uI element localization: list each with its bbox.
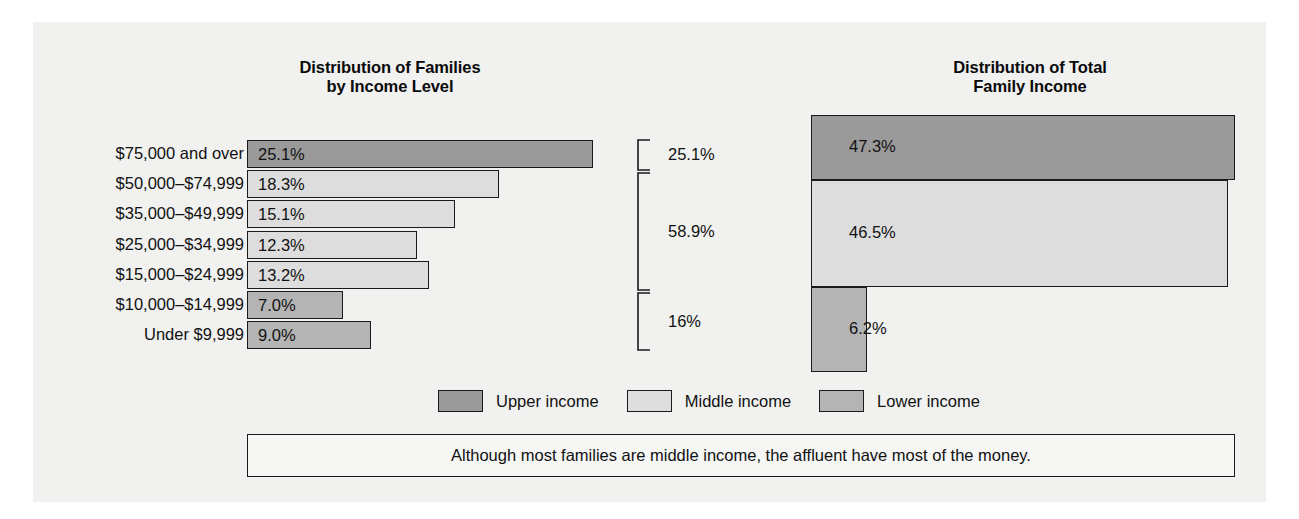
income-bracket-label: $15,000–$24,999 xyxy=(14,265,244,284)
income-share-value: 47.3% xyxy=(849,137,896,156)
income-bracket-row: $25,000–$34,99912.3% xyxy=(0,231,640,260)
legend-item: Lower income xyxy=(819,390,1008,412)
income-bracket-value: 12.3% xyxy=(258,236,305,255)
bracket-label: 25.1% xyxy=(668,145,715,164)
bracket-label: 16% xyxy=(668,312,701,331)
income-bracket-row: $15,000–$24,99913.2% xyxy=(0,261,640,290)
income-bracket-value: 9.0% xyxy=(258,326,296,345)
income-bracket-value: 25.1% xyxy=(258,145,305,164)
right-chart-title: Distribution of Total Family Income xyxy=(830,58,1230,96)
income-bracket-label: $35,000–$49,999 xyxy=(14,204,244,223)
income-bracket-value: 13.2% xyxy=(258,266,305,285)
legend-swatch-icon xyxy=(438,390,483,412)
income-bracket-row: Under $9,9999.0% xyxy=(0,321,640,350)
income-bracket-row: $10,000–$14,9997.0% xyxy=(0,291,640,320)
right-chart-title-line2: Family Income xyxy=(830,77,1230,96)
income-bracket-label: Under $9,999 xyxy=(14,325,244,344)
right-chart-title-line1: Distribution of Total xyxy=(830,58,1230,77)
chart-legend: Upper incomeMiddle incomeLower income xyxy=(438,388,1008,414)
income-bracket-value: 7.0% xyxy=(258,296,296,315)
left-bar-chart: $75,000 and over25.1%$50,000–$74,99918.3… xyxy=(0,0,640,400)
income-bracket-row: $50,000–$74,99918.3% xyxy=(0,170,640,199)
income-bracket-label: $50,000–$74,999 xyxy=(14,174,244,193)
income-share-value: 6.2% xyxy=(849,319,887,338)
legend-swatch-icon xyxy=(819,390,864,412)
figure-canvas: Distribution of Families by Income Level… xyxy=(0,0,1299,519)
legend-label: Lower income xyxy=(877,392,980,411)
legend-item: Middle income xyxy=(627,390,819,412)
income-bracket-value: 18.3% xyxy=(258,175,305,194)
income-bracket-value: 15.1% xyxy=(258,205,305,224)
caption-box: Although most families are middle income… xyxy=(247,434,1235,477)
income-bracket-label: $10,000–$14,999 xyxy=(14,295,244,314)
caption-text: Although most families are middle income… xyxy=(451,446,1031,465)
bracket-label: 58.9% xyxy=(668,222,715,241)
right-bar-chart: 47.3%46.5%6.2% xyxy=(811,115,1241,375)
income-bracket-label: $75,000 and over xyxy=(14,144,244,163)
income-share-value: 46.5% xyxy=(849,223,896,242)
legend-label: Upper income xyxy=(496,392,599,411)
legend-swatch-icon xyxy=(627,390,672,412)
income-bracket-row: $75,000 and over25.1% xyxy=(0,140,640,169)
income-bracket-label: $25,000–$34,999 xyxy=(14,235,244,254)
legend-item: Upper income xyxy=(438,390,627,412)
income-bracket-row: $35,000–$49,99915.1% xyxy=(0,200,640,229)
legend-label: Middle income xyxy=(685,392,791,411)
